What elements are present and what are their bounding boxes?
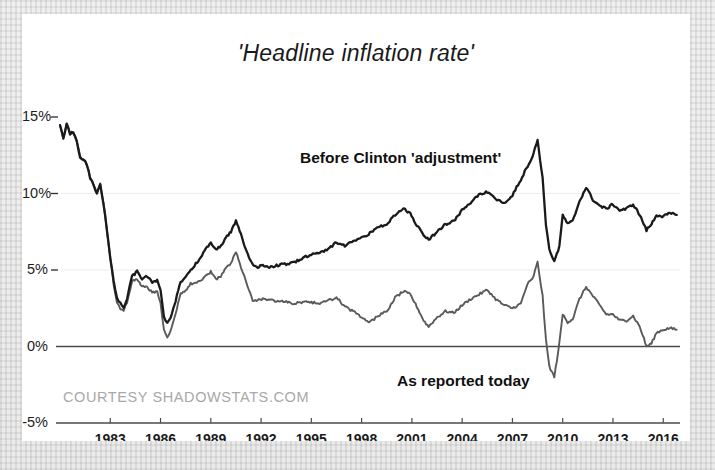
x-axis-tick-label: 1983 [84, 431, 136, 441]
x-axis-tick-label: 1998 [336, 431, 388, 441]
annotation-as-reported-today: As reported today [397, 372, 530, 390]
y-axis-tick-label: 15% [22, 108, 48, 124]
x-axis-tick-label: 1989 [185, 431, 237, 441]
x-axis-tick-label: 2016 [637, 431, 689, 441]
y-axis-tick-label: -5% [22, 414, 48, 430]
x-axis-tick-label: 2004 [436, 431, 488, 441]
y-axis-tick-label: 0% [22, 338, 48, 354]
chart-title: 'Headline inflation rate' [22, 40, 690, 67]
annotation-before-clinton-adjustment: Before Clinton 'adjustment' [300, 149, 501, 167]
y-axis-tick-label: 10% [22, 185, 48, 201]
x-axis-tick-label: 2013 [587, 431, 639, 441]
x-axis-tick-label: 1986 [135, 431, 187, 441]
x-axis-tick-label: 2010 [537, 431, 589, 441]
screenshot-root: 'Headline inflation rate' 15%10%5%0%-5% … [0, 0, 715, 470]
courtesy-credit: COURTESY SHADOWSTATS.COM [63, 389, 309, 405]
y-axis-tick-label: 5% [22, 261, 48, 277]
x-axis-tick-label: 2001 [386, 431, 438, 441]
inflation-line-chart [22, 14, 690, 441]
x-axis-tick-label: 1995 [285, 431, 337, 441]
x-axis-tick-label: 1992 [235, 431, 287, 441]
x-axis-tick-label: 2007 [486, 431, 538, 441]
chart-card: 'Headline inflation rate' 15%10%5%0%-5% … [22, 14, 690, 441]
